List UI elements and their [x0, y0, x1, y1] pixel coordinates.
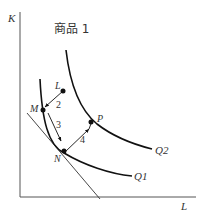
isoquant-diagram: K L 商品 1 Q1 Q2 L M N P 2 3 4 — [0, 0, 214, 215]
point-m — [41, 108, 46, 113]
diagram-title: 商品 1 — [54, 21, 89, 36]
point-n — [62, 149, 67, 154]
point-p — [89, 120, 94, 125]
step-4-label: 4 — [80, 134, 85, 145]
point-n-label: N — [53, 153, 62, 164]
step-2-label: 2 — [56, 99, 61, 110]
q2-label: Q2 — [155, 144, 169, 156]
point-m-label: M — [29, 103, 39, 114]
q1-label: Q1 — [134, 170, 147, 182]
arrow-4 — [65, 129, 89, 152]
point-p-label: P — [96, 113, 103, 124]
isoquant-q2 — [66, 50, 152, 149]
point-l — [61, 89, 66, 94]
point-l-label: L — [54, 80, 61, 91]
isocost-line — [27, 113, 100, 199]
x-axis-label: L — [180, 200, 187, 212]
y-axis-label: K — [7, 12, 16, 24]
step-3-label: 3 — [56, 119, 61, 130]
